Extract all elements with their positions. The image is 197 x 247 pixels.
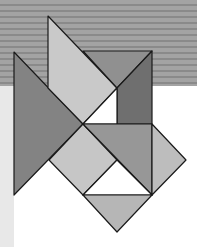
tangram-figure: [0, 0, 197, 247]
shapes-layer: [0, 0, 197, 247]
right-diamond-triangle: [152, 124, 186, 195]
bottom-triangle: [83, 195, 152, 232]
